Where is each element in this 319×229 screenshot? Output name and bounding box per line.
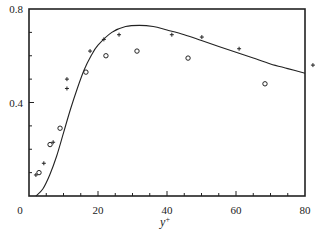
circle-marker	[186, 56, 190, 60]
x-tick-label: 60	[231, 204, 243, 216]
chart: 204060800.40.8 0 y+	[0, 0, 319, 229]
plus-marker	[42, 161, 46, 165]
plus-marker	[170, 33, 174, 37]
circle-marker	[37, 170, 41, 174]
x-axis-title: y+	[159, 215, 170, 229]
origin-label: 0	[17, 204, 23, 216]
circle-marker	[48, 142, 52, 146]
plus-marker	[65, 77, 69, 81]
plus-marker	[117, 33, 121, 37]
x-tick-label: 80	[300, 204, 312, 216]
circle-marker	[104, 54, 108, 58]
x-tick-label: 20	[93, 204, 105, 216]
plus-marker	[65, 86, 69, 90]
circle-marker	[135, 49, 139, 53]
y-tick-label: 0.4	[9, 97, 23, 109]
plus-marker	[311, 63, 315, 67]
circle-marker	[58, 126, 62, 130]
circle-marker	[84, 70, 88, 74]
circle-marker	[263, 82, 267, 86]
y-tick-label: 0.8	[9, 3, 23, 15]
plot-frame	[29, 9, 305, 196]
plus-marker	[88, 49, 92, 53]
plus-marker	[237, 47, 241, 51]
plus-marker	[200, 35, 204, 39]
model-curve	[36, 25, 305, 196]
